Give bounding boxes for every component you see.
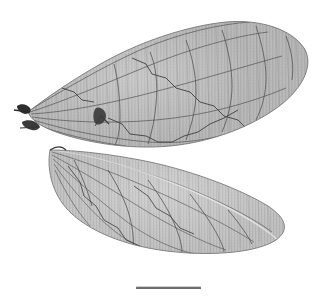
scale-bar: [136, 286, 201, 289]
wing-specimen-figure: [0, 0, 325, 302]
figure-plate: [0, 0, 325, 302]
